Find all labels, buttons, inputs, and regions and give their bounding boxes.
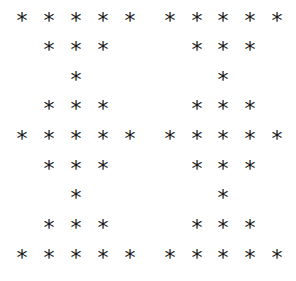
asterisk-icon: *	[93, 37, 113, 57]
asterisk-icon: *	[93, 96, 113, 116]
asterisk-icon: *	[267, 8, 287, 28]
asterisk-icon: *	[160, 126, 180, 146]
asterisk-icon: *	[213, 185, 233, 205]
asterisk-icon: *	[240, 96, 260, 116]
asterisk-icon: *	[39, 156, 59, 176]
asterisk-icon: *	[120, 245, 140, 265]
asterisk-icon: *	[66, 245, 86, 265]
asterisk-icon: *	[66, 8, 86, 28]
asterisk-icon: *	[213, 96, 233, 116]
asterisk-icon: *	[187, 245, 207, 265]
asterisk-icon: *	[240, 245, 260, 265]
asterisk-icon: *	[267, 245, 287, 265]
asterisk-icon: *	[93, 126, 113, 146]
asterisk-icon: *	[93, 156, 113, 176]
asterisk-icon: *	[240, 215, 260, 235]
asterisk-icon: *	[66, 215, 86, 235]
asterisk-icon: *	[39, 96, 59, 116]
asterisk-icon: *	[66, 156, 86, 176]
asterisk-icon: *	[39, 245, 59, 265]
asterisk-icon: *	[12, 126, 32, 146]
asterisk-icon: *	[213, 215, 233, 235]
asterisk-icon: *	[187, 96, 207, 116]
asterisk-icon: *	[213, 67, 233, 87]
asterisk-icon: *	[160, 245, 180, 265]
asterisk-icon: *	[120, 8, 140, 28]
asterisk-pattern-canvas: ****************************************…	[0, 0, 296, 281]
asterisk-icon: *	[213, 245, 233, 265]
asterisk-icon: *	[66, 67, 86, 87]
asterisk-icon: *	[66, 96, 86, 116]
asterisk-icon: *	[187, 156, 207, 176]
asterisk-icon: *	[66, 126, 86, 146]
asterisk-icon: *	[240, 37, 260, 57]
asterisk-icon: *	[240, 126, 260, 146]
asterisk-icon: *	[187, 37, 207, 57]
asterisk-icon: *	[66, 185, 86, 205]
asterisk-icon: *	[240, 8, 260, 28]
asterisk-icon: *	[187, 126, 207, 146]
asterisk-icon: *	[93, 8, 113, 28]
asterisk-icon: *	[93, 245, 113, 265]
asterisk-icon: *	[39, 126, 59, 146]
asterisk-icon: *	[12, 245, 32, 265]
asterisk-icon: *	[213, 8, 233, 28]
asterisk-icon: *	[93, 215, 113, 235]
asterisk-icon: *	[213, 156, 233, 176]
asterisk-icon: *	[12, 8, 32, 28]
asterisk-icon: *	[213, 126, 233, 146]
asterisk-icon: *	[240, 156, 260, 176]
asterisk-icon: *	[39, 8, 59, 28]
asterisk-icon: *	[120, 126, 140, 146]
asterisk-icon: *	[187, 215, 207, 235]
asterisk-icon: *	[39, 215, 59, 235]
asterisk-icon: *	[187, 8, 207, 28]
asterisk-icon: *	[267, 126, 287, 146]
asterisk-icon: *	[160, 8, 180, 28]
asterisk-icon: *	[213, 37, 233, 57]
asterisk-icon: *	[66, 37, 86, 57]
asterisk-icon: *	[39, 37, 59, 57]
